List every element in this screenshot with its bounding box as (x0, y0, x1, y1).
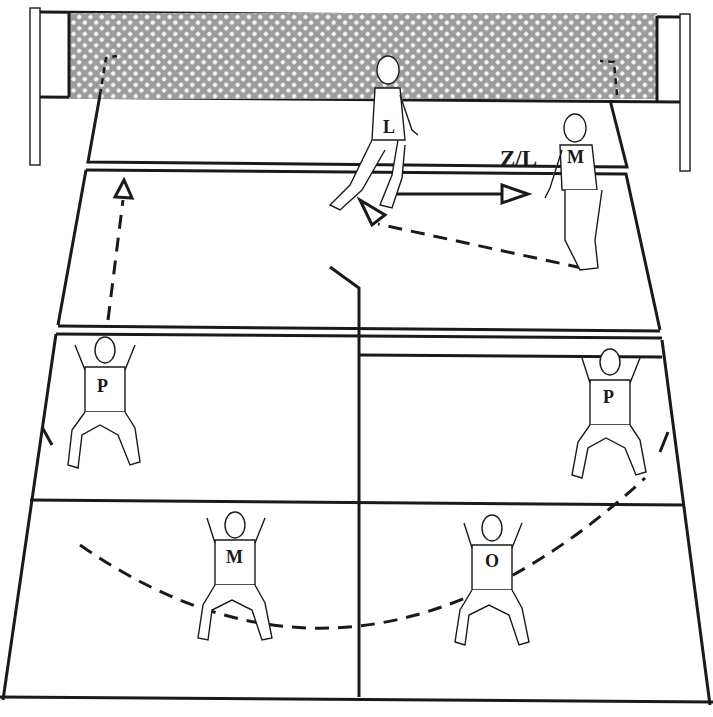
end-line (0, 697, 713, 702)
svg-text:M: M (567, 147, 584, 167)
volleyball-court-diagram: Z/L L M P P M (0, 0, 713, 717)
svg-text:P: P (97, 376, 108, 396)
player-right-passer: P (572, 349, 646, 478)
svg-text:M: M (226, 547, 243, 567)
player-center-middle: M (198, 512, 272, 640)
svg-text:O: O (485, 551, 499, 571)
player-left-passer: P (68, 337, 140, 468)
upward-arrowhead-icon (115, 180, 132, 198)
left-sideline (3, 334, 56, 700)
net-mesh (69, 13, 657, 99)
right-net-post (680, 14, 690, 171)
upward-dashed-arrow (108, 200, 123, 320)
near-net-strip (88, 95, 627, 167)
zone-label: Z/L (500, 146, 537, 171)
svg-text:L: L (383, 117, 395, 137)
right-sideline (662, 340, 710, 705)
svg-text:P: P (603, 387, 614, 407)
left-net-post (30, 8, 40, 165)
middle-return-dashed-arrow (378, 224, 582, 268)
player-front-middle: M (545, 114, 602, 270)
player-center-opposite: O (455, 515, 529, 645)
center-divider (330, 267, 359, 697)
right-arrowhead-icon (502, 185, 528, 203)
